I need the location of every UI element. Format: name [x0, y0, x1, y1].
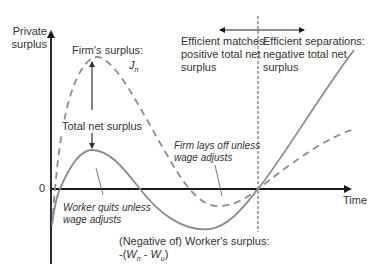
firm-lays-off-label: Firm lays off unless wage adjusts: [174, 140, 260, 164]
firm-surplus-symbol: Jn: [129, 59, 138, 76]
y-axis-label-line1: Private: [7, 25, 47, 38]
y-axis-label: Private surplus: [7, 25, 47, 51]
worker-quits-pointer: [96, 168, 103, 195]
firm-surplus-label: Firm's surplus:: [72, 44, 143, 57]
efficient-matches-label: Efficient matches: positive total net su…: [181, 35, 268, 74]
zero-label: 0: [39, 182, 45, 195]
efficient-separations-label: Efficient separations: negative total ne…: [263, 35, 365, 74]
firm-surplus-curve: [53, 57, 352, 215]
firm-surplus-label-line1: Firm's surplus:: [72, 44, 143, 56]
worker-surplus-formula: -(Wn - Wu): [119, 248, 269, 265]
worker-surplus-label: (Negative of) Worker's surplus: -(Wn - W…: [119, 235, 269, 265]
worker-quits-label: Worker quits unless wage adjusts: [63, 202, 151, 226]
worker-surplus-label-line1: (Negative of) Worker's surplus:: [119, 235, 269, 248]
total-net-surplus-label: Total net surplus: [61, 120, 143, 133]
y-axis-label-line2: surplus: [7, 38, 47, 51]
firm-lays-off-pointer: [215, 165, 222, 196]
x-axis-label: Time: [343, 194, 367, 207]
